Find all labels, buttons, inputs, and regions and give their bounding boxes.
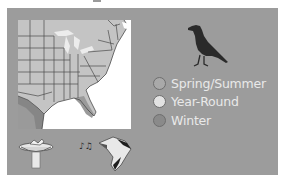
bird-silhouette-icon [182, 22, 232, 70]
legend-label: Year-Round [171, 94, 239, 109]
year-round-swatch-icon [153, 95, 166, 108]
cropped-title-fragment [93, 0, 101, 2]
legend-label: Spring/Summer [171, 76, 266, 91]
us-map-graphic [18, 20, 131, 129]
legend-item-winter: Winter [153, 111, 266, 130]
spring-summer-swatch-icon [153, 77, 166, 90]
season-legend: Spring/Summer Year-Round Winter [153, 74, 266, 130]
singing-bird-icon: ♪♫ [77, 135, 133, 171]
legend-item-year-round: Year-Round [153, 93, 266, 112]
range-map-panel: Spring/Summer Year-Round Winter ♪♫ [7, 8, 278, 175]
bird-bath-icon [16, 134, 58, 170]
legend-item-spring-summer: Spring/Summer [153, 74, 266, 93]
svg-text:♪♫: ♪♫ [79, 141, 93, 151]
legend-label: Winter [171, 113, 211, 128]
range-map [18, 20, 131, 129]
winter-swatch-icon [153, 114, 166, 127]
